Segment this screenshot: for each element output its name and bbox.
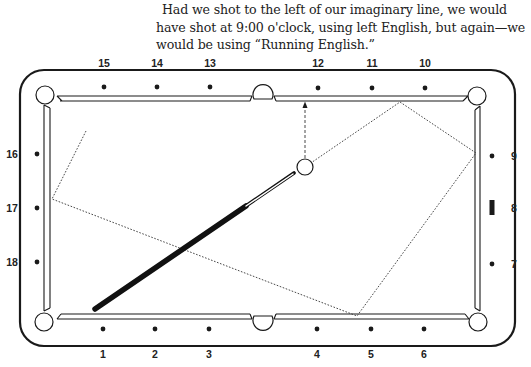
label-1: 1 <box>100 348 106 360</box>
cushion-top-left <box>57 96 252 101</box>
diamond-2 <box>153 327 158 332</box>
diamond-6 <box>422 327 427 332</box>
diamond-5 <box>369 327 374 332</box>
pocket-bottom-middle <box>253 316 273 330</box>
diamond-3 <box>207 327 212 332</box>
pocket-top-middle <box>253 85 273 99</box>
pocket-bottom-left <box>35 313 53 331</box>
diamond-4 <box>315 327 320 332</box>
diamond-12 <box>316 86 321 91</box>
label-11: 11 <box>366 57 377 69</box>
pocket-top-left <box>36 86 54 104</box>
label-9: 9 <box>511 150 517 162</box>
cushion-left <box>44 105 50 311</box>
diamond-1 <box>101 327 106 332</box>
pool-table-diagram: 15 14 13 12 11 10 1 2 3 4 5 6 16 17 18 9… <box>0 0 531 367</box>
diamond-13 <box>208 85 213 90</box>
diamond-18 <box>35 260 40 265</box>
diamond-15 <box>102 85 107 90</box>
cue-stick-icon <box>95 173 294 309</box>
label-4: 4 <box>314 348 320 360</box>
label-17: 17 <box>6 202 18 214</box>
label-16: 16 <box>6 148 18 160</box>
diamond-11 <box>370 86 375 91</box>
diamond-14 <box>155 85 160 90</box>
label-8: 8 <box>511 202 517 214</box>
arrow-up-icon <box>303 102 308 109</box>
label-7: 7 <box>511 258 517 270</box>
label-15: 15 <box>98 57 110 69</box>
label-3: 3 <box>206 348 212 360</box>
label-13: 13 <box>204 57 216 69</box>
table-outer-frame <box>20 70 515 346</box>
ball-path-dotted <box>52 102 476 316</box>
diamond-9 <box>490 154 495 159</box>
diamond-10 <box>423 86 428 91</box>
cushions <box>44 96 480 319</box>
pockets <box>35 85 487 331</box>
cue-butt <box>95 206 246 309</box>
diamond-17 <box>35 206 40 211</box>
pocket-bottom-right <box>469 313 487 331</box>
pocket-top-right <box>468 87 486 105</box>
cushion-right <box>475 106 480 311</box>
label-10: 10 <box>419 57 431 69</box>
label-5: 5 <box>368 348 374 360</box>
label-18: 18 <box>6 256 18 268</box>
label-6: 6 <box>421 348 427 360</box>
rail-diamonds <box>35 85 495 332</box>
label-12: 12 <box>312 57 324 69</box>
diamond-7 <box>490 262 495 267</box>
diamond-16 <box>35 152 40 157</box>
cue-ball-icon <box>297 159 313 175</box>
label-2: 2 <box>152 348 158 360</box>
aim-marker-8 <box>490 200 495 215</box>
cushion-bottom-right <box>274 314 469 319</box>
cushion-top-right <box>274 96 468 101</box>
cue-shaft-inner <box>246 174 293 206</box>
label-14: 14 <box>151 57 163 69</box>
cushion-bottom-left <box>57 314 252 319</box>
